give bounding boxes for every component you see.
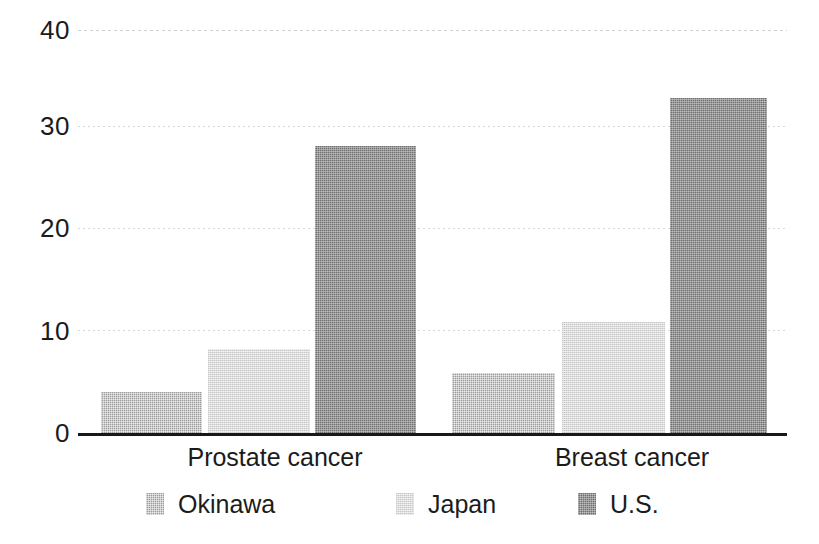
legend-swatch-okinawa-icon <box>146 493 164 515</box>
bar-chart: 40 30 20 10 0 Prostate cancer Breast can… <box>0 0 819 544</box>
legend-item-japan: Japan <box>396 487 496 521</box>
legend-swatch-us-icon <box>578 493 596 515</box>
bar-prostate-us <box>315 146 416 434</box>
y-axis-tick-20: 20 <box>8 215 70 241</box>
bar-breast-okinawa <box>452 373 555 434</box>
y-axis-tick-10: 10 <box>8 318 70 344</box>
y-axis-tick-30: 30 <box>8 113 70 139</box>
y-axis: 40 30 20 10 0 <box>0 0 70 544</box>
category-label-breast: Breast cancer <box>512 443 752 471</box>
legend-label-japan: Japan <box>428 490 496 518</box>
y-axis-tick-40: 40 <box>8 17 70 43</box>
legend-label-us: U.S. <box>610 490 659 518</box>
gridline-40 <box>78 30 787 31</box>
legend-item-okinawa: Okinawa <box>146 487 275 521</box>
legend-label-okinawa: Okinawa <box>178 490 275 518</box>
bar-prostate-japan <box>208 349 310 434</box>
bar-prostate-okinawa <box>101 392 202 434</box>
legend: Okinawa Japan U.S. <box>0 487 819 527</box>
bar-breast-japan <box>562 322 665 434</box>
x-axis-baseline <box>78 433 787 436</box>
plot-area <box>78 30 787 434</box>
category-label-prostate: Prostate cancer <box>155 443 395 471</box>
bar-breast-us <box>670 98 767 434</box>
legend-swatch-japan-icon <box>396 493 414 515</box>
y-axis-tick-0: 0 <box>8 420 70 446</box>
legend-item-us: U.S. <box>578 487 659 521</box>
